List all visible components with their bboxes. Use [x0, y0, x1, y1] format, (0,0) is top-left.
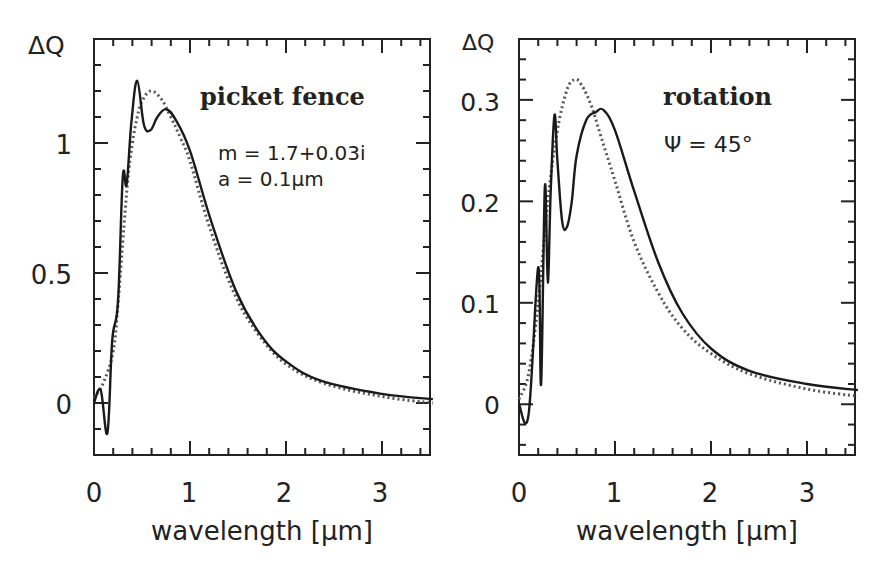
left-plot-panel: ΔQ 1 0.5 0 0 1 2 3 wavelength [µm] picke… [28, 31, 433, 546]
left-param-refractive-index: m = 1.7+0.03i [218, 141, 366, 165]
right-ytick-label: 0 [484, 391, 500, 420]
right-dotted-curve [519, 79, 858, 399]
right-plot-panel: ΔQ 0.3 0.2 0.1 0 0 1 2 3 wavelength [µm]… [460, 30, 858, 546]
right-xtick-label: 1 [606, 478, 623, 508]
left-ytick-labels: 1 0.5 0 [31, 130, 72, 420]
right-panel-title: rotation [663, 82, 772, 111]
left-xtick-label: 2 [276, 478, 293, 508]
left-panel-title: picket fence [200, 82, 365, 111]
left-solid-curve [94, 81, 433, 434]
left-ytick-label: 0.5 [31, 260, 72, 290]
right-y-axis-label: ΔQ [462, 30, 494, 55]
right-xtick-label: 2 [702, 478, 719, 508]
right-param-angle: Ψ = 45° [664, 132, 753, 157]
left-xtick-label: 0 [86, 478, 103, 508]
right-ytick-label: 0.1 [460, 290, 500, 319]
left-xtick-labels: 0 1 2 3 [86, 478, 389, 508]
left-x-axis-label: wavelength [µm] [151, 516, 373, 546]
left-ytick-label: 0 [55, 390, 72, 420]
figure: ΔQ 1 0.5 0 0 1 2 3 wavelength [µm] picke… [0, 0, 876, 577]
right-x-axis-label: wavelength [µm] [576, 516, 798, 546]
right-xtick-labels: 0 1 2 3 [511, 478, 816, 508]
right-ytick-label: 0.2 [460, 189, 500, 218]
left-xtick-label: 3 [372, 478, 389, 508]
left-param-grain-size: a = 0.1µm [218, 167, 324, 191]
right-xtick-label: 3 [799, 478, 816, 508]
left-dotted-curve [94, 91, 433, 403]
right-xtick-label: 0 [511, 478, 528, 508]
left-y-axis-label: ΔQ [28, 31, 65, 60]
right-ytick-labels: 0.3 0.2 0.1 0 [460, 88, 500, 420]
right-ytick-label: 0.3 [460, 88, 500, 117]
left-xtick-label: 1 [181, 478, 198, 508]
left-ytick-label: 1 [55, 130, 72, 160]
